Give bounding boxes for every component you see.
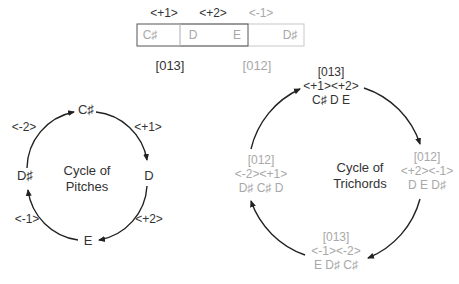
note-e: E (233, 28, 241, 42)
pitch-interval-minus2: <-2> (12, 120, 37, 134)
note-d-sharp: D♯ (283, 28, 298, 42)
trichord-node-bottom: [013] <-1><-2> E D♯ C♯ (311, 230, 360, 272)
set-class-012: [012] (243, 58, 272, 73)
pitch-title-line2: Pitches (64, 179, 111, 195)
trichord-node-top: [013] <+1><+2> C♯ D E (303, 65, 358, 107)
pitch-cycle-title: Cycle of Pitches (64, 163, 111, 195)
trichord-node-left: [012] <-2><+1> D♯ C♯ D (235, 153, 287, 195)
trichord-cycle-title: Cycle of Trichords (333, 160, 387, 192)
pitch-node-c-sharp: C♯ (78, 102, 94, 117)
note-c-sharp: C♯ (143, 28, 158, 42)
interval-label-2: <+2> (199, 6, 227, 20)
pitch-interval-plus1: <+1> (134, 120, 162, 134)
trichord-node-right: [012] <+2><-1> D E D♯ (401, 150, 453, 192)
pitch-node-d: D (144, 168, 153, 183)
pitch-interval-plus2: <+2> (135, 212, 163, 226)
interval-label-1: <+1> (150, 6, 178, 20)
pitch-title-line1: Cycle of (64, 163, 111, 179)
trichord-title-line1: Cycle of (333, 160, 387, 176)
set-class-013: [013] (156, 58, 185, 73)
diagram-graphics (0, 0, 459, 284)
pitch-interval-minus1: <-1> (15, 212, 40, 226)
interval-label-3: <-1> (249, 6, 274, 20)
pitch-node-d-sharp: D♯ (17, 168, 33, 183)
note-d: D (189, 28, 198, 42)
pitch-node-e: E (84, 233, 93, 248)
trichord-title-line2: Trichords (333, 176, 387, 192)
